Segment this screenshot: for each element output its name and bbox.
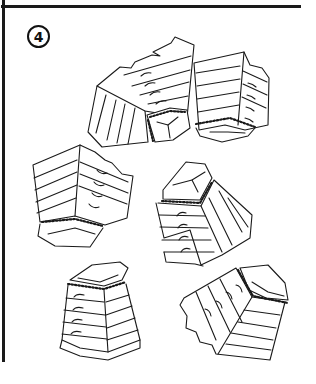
vaulting-box-1 <box>88 37 194 147</box>
vaulting-box-2 <box>194 52 269 142</box>
vaulting-box-6 <box>180 265 288 360</box>
vaulting-box-3 <box>33 145 133 247</box>
vaulting-box-5 <box>60 262 140 360</box>
vaulting-box-4 <box>156 162 252 266</box>
vaulting-boxes-illustration <box>0 0 316 384</box>
